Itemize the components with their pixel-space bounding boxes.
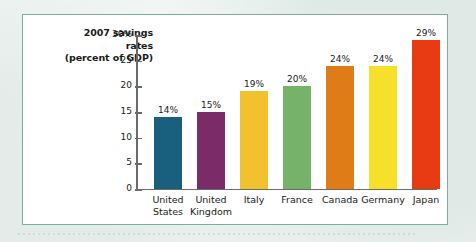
y-axis-tick: 20	[101, 86, 142, 87]
y-axis-tick-mark	[135, 189, 142, 191]
bar-value-label: 19%	[244, 79, 264, 89]
figure-page: 2007 savings rates (percent of GDP) 30%2…	[0, 0, 476, 242]
bar-value-label: 15%	[201, 100, 221, 110]
y-axis-tick-label: 5	[126, 157, 132, 167]
y-axis-tick-mark	[135, 35, 142, 37]
y-axis-tick-label: 20	[121, 80, 132, 90]
x-axis-category-label-line: Japan	[397, 194, 455, 206]
bar-value-label: 20%	[287, 74, 307, 84]
bar-value-label: 29%	[416, 28, 436, 38]
bar-value-label: 14%	[158, 105, 178, 115]
bar	[197, 112, 225, 189]
y-axis-tick: 15	[101, 112, 142, 113]
chart-figure-frame: 2007 savings rates (percent of GDP) 30%2…	[22, 14, 448, 225]
bar	[369, 66, 397, 189]
y-axis-tick-mark	[135, 61, 142, 63]
y-axis-tick-label: 15	[121, 106, 132, 116]
page-dotted-rule	[18, 233, 418, 235]
y-axis-tick: 10	[101, 138, 142, 139]
bar	[240, 91, 268, 189]
y-axis-tick-label: 10	[121, 132, 132, 142]
bar-value-label: 24%	[373, 54, 393, 64]
bar	[326, 66, 354, 189]
y-axis-tick-label: 25	[121, 55, 132, 65]
x-axis-category-label: Japan	[397, 194, 455, 206]
y-axis-tick: 5	[101, 163, 142, 164]
bar-group: 29%	[397, 40, 455, 189]
y-axis-tick: 30%	[101, 35, 142, 36]
y-axis-tick-label: 30%	[112, 29, 132, 39]
y-axis-tick-mark	[135, 112, 142, 114]
y-axis-tick: 25	[101, 61, 142, 62]
bar	[412, 40, 440, 189]
x-axis-category-label-line: Kingdom	[182, 206, 240, 218]
y-axis-tick: 0	[101, 189, 142, 190]
bar-value-label: 24%	[330, 54, 350, 64]
plot-area: 30%2520151050 14%15%19%20%24%24%29% Unit…	[23, 15, 447, 224]
bar	[154, 117, 182, 189]
bar	[283, 86, 311, 189]
y-axis-tick-label: 0	[126, 183, 132, 193]
y-axis-tick-mark	[135, 86, 142, 88]
